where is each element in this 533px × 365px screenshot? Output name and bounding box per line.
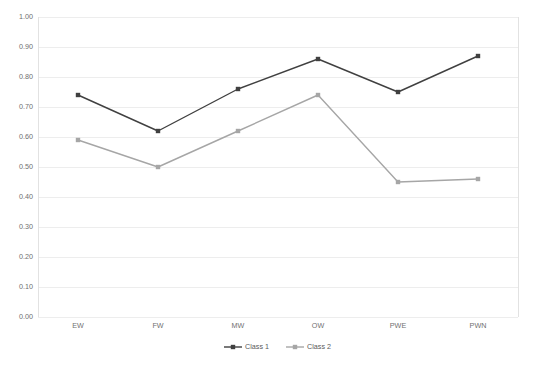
data-point-class-2-FW [156, 165, 160, 169]
data-point-class-1-FW [156, 129, 160, 133]
data-point-class-2-OW [316, 93, 320, 97]
data-point-class-1-PWN [476, 54, 480, 58]
x-axis-tick-labels: EWFWMWOWPWEPWN [72, 321, 486, 330]
series-class-2 [76, 93, 480, 184]
chart-canvas: 1.000.900.800.700.600.500.400.300.200.10… [0, 0, 533, 365]
y-tick-label-0.70: 0.70 [19, 102, 33, 111]
legend-item-class-2[interactable]: Class 2 [286, 342, 331, 351]
data-point-class-2-EW [76, 138, 80, 142]
data-series [76, 54, 480, 184]
legend-item-class-1[interactable]: Class 1 [224, 342, 269, 351]
data-point-class-1-OW [316, 57, 320, 61]
series-class-1 [76, 54, 480, 133]
legend-label-1: Class 1 [245, 342, 269, 351]
data-point-class-1-MW [236, 87, 240, 91]
legend-marker-1 [231, 345, 235, 349]
chart-screenshot: 1.000.900.800.700.600.500.400.300.200.10… [0, 0, 533, 365]
x-tick-label-PWE: PWE [390, 321, 407, 330]
y-tick-label-0.40: 0.40 [19, 192, 33, 201]
y-tick-label-0.30: 0.30 [19, 222, 33, 231]
x-tick-label-FW: FW [152, 321, 163, 330]
y-tick-label-0.20: 0.20 [19, 252, 33, 261]
y-tick-label-0.50: 0.50 [19, 162, 33, 171]
y-tick-label-0.80: 0.80 [19, 72, 33, 81]
x-tick-label-MW: MW [232, 321, 245, 330]
x-tick-label-PWN: PWN [470, 321, 487, 330]
y-tick-label-0.10: 0.10 [19, 282, 33, 291]
chart-legend: Class 1Class 2 [224, 342, 331, 351]
data-point-class-2-PWN [476, 177, 480, 181]
gridlines [38, 18, 518, 318]
legend-marker-2 [293, 345, 297, 349]
x-tick-label-OW: OW [312, 321, 325, 330]
series-line-2 [78, 95, 478, 182]
y-tick-label-0.00: 0.00 [19, 312, 33, 321]
data-point-class-1-PWE [396, 90, 400, 94]
y-tick-label-0.90: 0.90 [19, 42, 33, 51]
data-point-class-2-MW [236, 129, 240, 133]
x-tick-label-EW: EW [72, 321, 84, 330]
y-tick-label-1.00: 1.00 [19, 12, 33, 21]
y-tick-label-0.60: 0.60 [19, 132, 33, 141]
legend-label-2: Class 2 [307, 342, 331, 351]
line-chart: 1.000.900.800.700.600.500.400.300.200.10… [0, 0, 533, 365]
series-line-1 [78, 56, 478, 131]
data-point-class-2-PWE [396, 180, 400, 184]
data-point-class-1-EW [76, 93, 80, 97]
y-axis-tick-labels: 1.000.900.800.700.600.500.400.300.200.10… [19, 12, 33, 321]
